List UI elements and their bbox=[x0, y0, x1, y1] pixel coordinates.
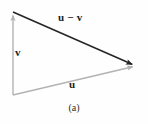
vector-label-u: u bbox=[69, 79, 75, 90]
vector-label-u-minus-v: u − v bbox=[58, 12, 82, 23]
vector-figure: u − v v u (a) bbox=[0, 0, 148, 124]
vector-label-v: v bbox=[15, 47, 21, 58]
figure-caption: (a) bbox=[0, 103, 148, 113]
